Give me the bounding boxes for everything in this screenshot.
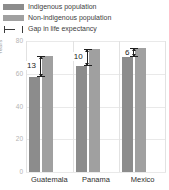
- x-axis-category-label: Mexico: [119, 175, 166, 184]
- bar-indigenous: [29, 77, 40, 172]
- chart-legend: Indigenous population Non-indigenous pop…: [3, 2, 167, 35]
- bar-indigenous: [76, 66, 87, 172]
- y-axis-tick-label: 20: [16, 136, 23, 142]
- gap-value-label: 10: [73, 52, 84, 61]
- gap-value-label: 13: [26, 61, 37, 70]
- life-expectancy-gap-chart: Indigenous population Non-indigenous pop…: [0, 0, 169, 190]
- y-axis-tick-label: 40: [16, 104, 23, 110]
- y-axis-tick-label: 80: [16, 38, 23, 44]
- y-axis-tick-label: 0: [19, 169, 23, 175]
- gridline: [26, 172, 166, 173]
- legend-label-indigenous: Indigenous population: [28, 3, 97, 11]
- bar-group: 6: [119, 41, 166, 172]
- square-swatch-icon: [3, 15, 24, 21]
- square-swatch-icon: [3, 4, 24, 10]
- legend-label-gap: Gap in life expectancy: [28, 25, 97, 33]
- bar-group: 13: [26, 41, 73, 172]
- bar-non-indigenous: [135, 48, 146, 172]
- bar-indigenous: [122, 57, 133, 172]
- bar-group: 10: [73, 41, 120, 172]
- bar-non-indigenous: [42, 56, 53, 172]
- bar-non-indigenous: [89, 49, 100, 172]
- x-axis-category-label: Guatemala: [26, 175, 73, 184]
- legend-item-indigenous: Indigenous population: [3, 2, 167, 12]
- x-axis-category-label: Panama: [73, 175, 120, 184]
- gap-range-icon: [3, 26, 24, 33]
- legend-item-non-indigenous: Non-indigenous population: [3, 13, 167, 23]
- legend-label-non-indigenous: Non-indigenous population: [28, 14, 111, 22]
- gap-value-label: 6: [124, 48, 130, 57]
- y-axis-title: Years: [0, 25, 3, 69]
- legend-item-gap: Gap in life expectancy: [3, 24, 167, 34]
- plot-area: 80604020013106: [26, 41, 166, 172]
- group-separator: [165, 41, 166, 172]
- y-axis-tick-label: 60: [16, 71, 23, 77]
